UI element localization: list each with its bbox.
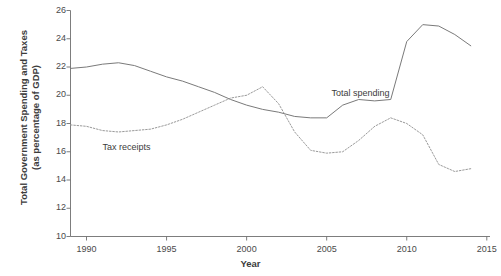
data-lines — [71, 25, 471, 172]
plot-canvas — [0, 0, 501, 276]
axes — [67, 11, 491, 241]
series-line-tax-receipts — [71, 87, 471, 172]
series-line-total-spending — [71, 25, 471, 118]
chart-figure: Total Government Spending and Taxes (as … — [0, 0, 501, 276]
